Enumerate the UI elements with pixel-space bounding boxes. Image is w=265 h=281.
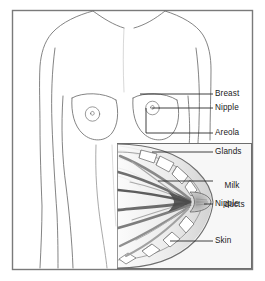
label-breast: Breast: [215, 89, 239, 98]
label-glands: Glands: [215, 147, 242, 156]
label-nipple-top: Nipple: [215, 103, 239, 112]
label-skin: Skin: [215, 236, 231, 245]
label-areola: Areola: [215, 128, 239, 137]
label-nipple-inset: Nipple: [215, 199, 239, 208]
label-milk-ducts: Milk ducts: [215, 172, 245, 219]
breast-anatomy-figure: Breast Nipple Areola Glands Milk ducts N…: [0, 0, 265, 281]
label-milk-ducts-line1: Milk: [225, 181, 240, 190]
